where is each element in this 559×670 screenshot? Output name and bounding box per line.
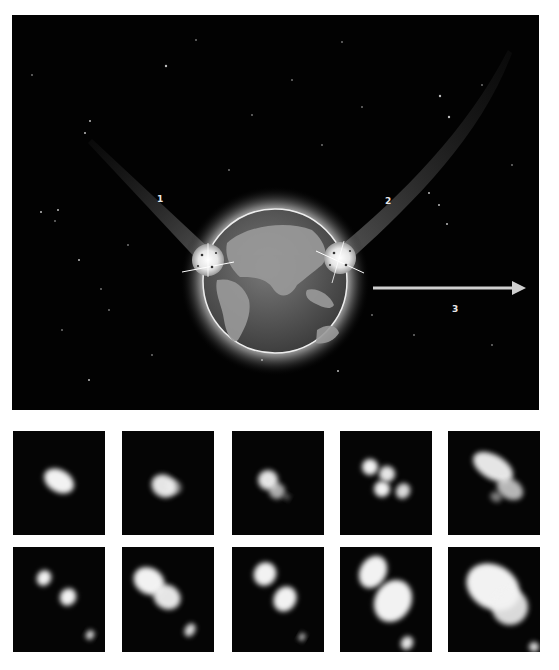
image-panel-3 [232,431,324,535]
image-panel-7 [122,547,214,652]
arrow-right-icon [373,281,526,295]
image-panel-1 [13,431,105,535]
space-scene [12,15,539,410]
image-panel-6 [13,547,105,652]
label-2: 2 [385,197,391,206]
label-1: 1 [157,195,163,204]
label-3: 3 [452,305,458,314]
satellite-orbit-illustration: 1 2 3 [12,15,539,410]
image-panel-8 [232,547,324,652]
image-panel-9 [340,547,432,652]
image-panel-2 [122,431,214,535]
image-panel-10 [448,547,540,652]
image-panel-4 [340,431,432,535]
image-panel-5 [448,431,540,535]
trail-right [337,50,512,262]
